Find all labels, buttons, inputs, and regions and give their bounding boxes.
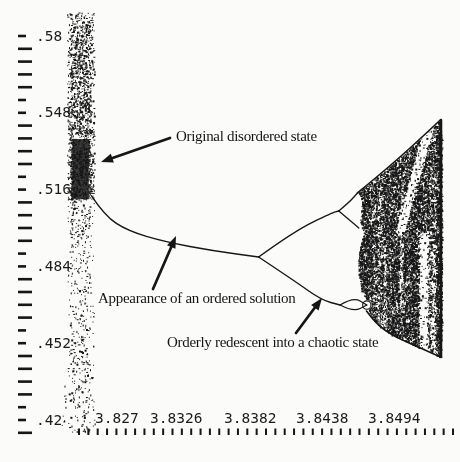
x-tick-label: 3.8438 — [296, 411, 348, 426]
y-tick-label: .516 — [36, 182, 71, 197]
annotation-orderly-redescent: Orderly redescent into a chaotic state — [167, 334, 378, 351]
bifurcation-figure: .58.548.516.484.452.42 3.8273.83263.8382… — [0, 0, 460, 462]
annotation-original-disordered-state: Original disordered state — [176, 128, 317, 145]
y-tick-label: .452 — [36, 336, 71, 351]
y-tick-label: .42 — [36, 413, 62, 428]
x-tick-label: 3.8494 — [368, 411, 420, 426]
bifurcation-plot-canvas — [0, 0, 460, 462]
x-tick-label: 3.8326 — [150, 411, 202, 426]
x-tick-label: 3.827 — [95, 411, 139, 426]
x-tick-label: 3.8382 — [224, 411, 276, 426]
y-tick-label: .484 — [36, 259, 71, 274]
y-tick-label: .58 — [36, 29, 62, 44]
annotation-appearance-ordered-solution: Appearance of an ordered solution — [98, 290, 296, 307]
y-tick-label: .548 — [36, 105, 71, 120]
